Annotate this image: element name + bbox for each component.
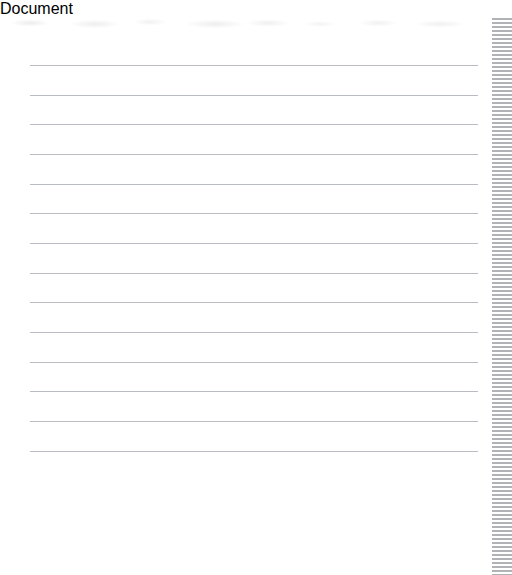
rule-line (30, 213, 478, 214)
right-edge-stripe-pattern (492, 18, 512, 575)
rule-line (30, 362, 478, 363)
rule-line (30, 243, 478, 244)
rule-line (30, 154, 478, 155)
rule-line (30, 421, 478, 422)
notebook-page (0, 18, 512, 575)
edge-strip-gap (478, 18, 492, 575)
rule-line (30, 332, 478, 333)
ruled-writing-area (0, 18, 492, 575)
rule-line (30, 302, 478, 303)
rule-line (30, 95, 478, 96)
rule-line (30, 451, 478, 452)
rule-line (30, 124, 478, 125)
rule-line (30, 273, 478, 274)
rule-line (30, 391, 478, 392)
rule-line (30, 184, 478, 185)
rule-line (30, 65, 478, 66)
